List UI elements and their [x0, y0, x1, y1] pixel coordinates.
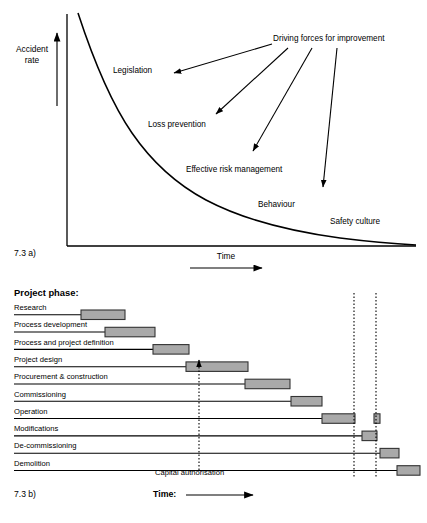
- gantt-bar[interactable]: [186, 362, 248, 372]
- arrow-to-legislation: [174, 44, 272, 73]
- gantt-bar[interactable]: [245, 379, 290, 389]
- time-label-b: Time:: [153, 489, 176, 499]
- curve-label-loss-prevention: Loss prevention: [148, 120, 206, 130]
- gantt-bar-secondary[interactable]: [374, 414, 380, 424]
- gantt-bar[interactable]: [81, 310, 125, 320]
- curve-label-safety-culture: Safety culture: [330, 217, 380, 227]
- gantt-row-label: Commissioning: [14, 390, 66, 399]
- gantt-bar[interactable]: [291, 397, 322, 407]
- figure-7-3-a: Accident rate Time Driving forces for im…: [0, 0, 427, 278]
- figure-sheet: Accident rate Time Driving forces for im…: [0, 0, 427, 523]
- x-axis-label: Time: [186, 251, 266, 262]
- y-axis-label-line-1: Accident: [8, 44, 56, 55]
- project-phase-heading: Project phase:: [14, 287, 79, 298]
- accident-rate-curve: [78, 13, 416, 245]
- y-axis-label: Accident rate: [8, 44, 56, 65]
- gantt-chart-svg: [0, 278, 427, 523]
- gantt-bar[interactable]: [105, 327, 155, 337]
- driving-forces-label: Driving forces for improvement: [273, 34, 384, 44]
- gantt-bar[interactable]: [397, 466, 420, 476]
- figure-a-caption: 7.3 a): [14, 248, 36, 258]
- arrow-to-effective-risk-management: [253, 48, 312, 151]
- curve-label-behaviour: Behaviour: [258, 200, 295, 210]
- gantt-row-label: De-commissioning: [14, 441, 76, 450]
- curve-label-effective-risk-management: Effective risk management: [186, 165, 282, 175]
- y-axis-label-line-2: rate: [8, 55, 56, 66]
- arrow-to-behaviour: [323, 48, 337, 187]
- gantt-row-label: Operation: [14, 407, 47, 416]
- gantt-row-label: Research: [14, 303, 47, 312]
- figure-b-caption: 7.3 b): [14, 489, 36, 499]
- curve-label-legislation: Legislation: [113, 66, 152, 76]
- gantt-bar[interactable]: [362, 431, 377, 441]
- gantt-row-label: Demolition: [14, 459, 50, 468]
- gantt-row-label: Process development: [14, 320, 87, 329]
- gantt-row-label: Process and project definition: [14, 338, 114, 347]
- gantt-bar[interactable]: [322, 414, 355, 424]
- gantt-row-label: Procurement & construction: [14, 372, 108, 381]
- gantt-bar[interactable]: [153, 345, 189, 355]
- figure-7-3-b: Project phase: ResearchProcess dev: [0, 278, 427, 523]
- gantt-row-label: Modifications: [14, 424, 58, 433]
- gantt-row-label: Project design: [14, 355, 62, 364]
- gantt-bar[interactable]: [380, 448, 399, 458]
- capital-authorisation-label: Capital authorisation: [155, 468, 224, 477]
